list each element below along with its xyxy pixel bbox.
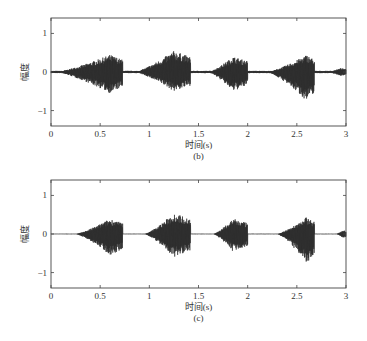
y-tick-label: −1	[37, 106, 47, 116]
x-axis-label: 时间(s)	[185, 139, 213, 150]
waveform-line	[51, 51, 346, 98]
x-tick-label: 2.5	[291, 291, 303, 301]
y-tick-label: 0	[43, 229, 48, 239]
x-tick-label: 1.5	[193, 291, 205, 301]
x-tick-label: 0.5	[95, 291, 107, 301]
x-tick-label: 0	[49, 291, 54, 301]
x-tick-label: 0.5	[95, 129, 107, 139]
y-tick-label: 0	[43, 67, 48, 77]
waveform-line	[51, 215, 346, 262]
y-tick-label: 1	[43, 28, 48, 38]
x-tick-label: 3	[344, 129, 349, 139]
panel-caption: (c)	[194, 313, 204, 323]
x-tick-label: 2	[245, 129, 250, 139]
y-axis-label: 幅度	[19, 225, 30, 243]
x-tick-label: 3	[344, 291, 349, 301]
panel-0: 00.511.522.5310−1幅度时间(s)(b)	[19, 18, 349, 161]
x-tick-label: 1	[147, 291, 152, 301]
x-tick-label: 2.5	[291, 129, 303, 139]
panel-caption: (b)	[193, 151, 204, 161]
y-axis-label: 幅度	[19, 63, 30, 81]
x-tick-label: 1.5	[193, 129, 205, 139]
y-tick-label: −1	[37, 268, 47, 278]
figure: 00.511.522.5310−1幅度时间(s)(b)00.511.522.53…	[0, 0, 367, 341]
panel-1: 00.511.522.5310−1幅度时间(s)(c)	[19, 180, 349, 323]
x-tick-label: 2	[245, 291, 250, 301]
y-tick-label: 1	[43, 190, 48, 200]
x-tick-label: 1	[147, 129, 152, 139]
x-tick-label: 0	[49, 129, 54, 139]
x-axis-label: 时间(s)	[185, 301, 213, 312]
